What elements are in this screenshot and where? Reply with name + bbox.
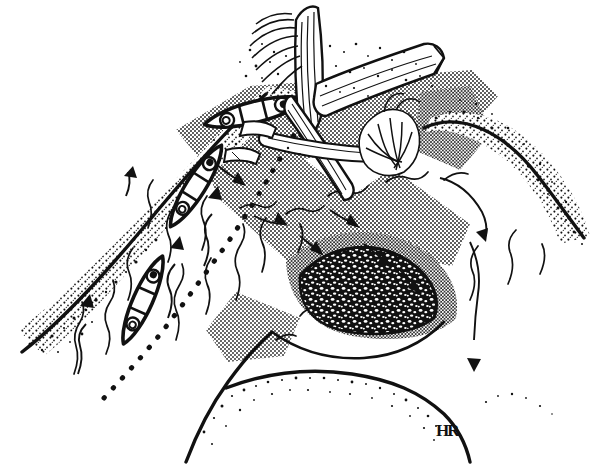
illustration-figure: River scene with canoes passing a logjam… bbox=[0, 0, 592, 464]
logjam-log-stub bbox=[224, 148, 260, 164]
right-bank bbox=[400, 80, 592, 270]
river-scene-drawing: HR bbox=[0, 0, 592, 464]
logjam-log-stub bbox=[240, 121, 276, 138]
artist-signature: HR bbox=[436, 421, 460, 440]
signature-monogram: HR bbox=[436, 421, 460, 440]
